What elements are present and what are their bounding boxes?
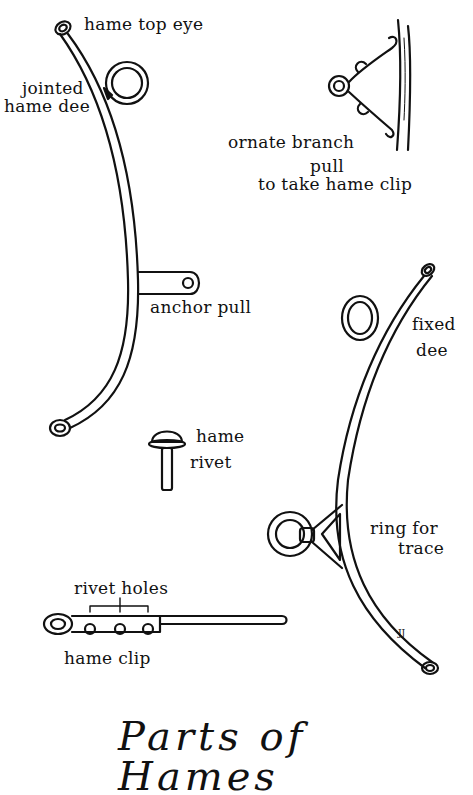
label-ornate-branch-pull: ornate branch — [228, 134, 354, 151]
hame-rivet — [149, 432, 185, 491]
label-ornate-branch-pull-2: pull — [310, 158, 344, 175]
label-ring-for-trace: ring for — [370, 520, 438, 537]
label-ring-for-trace-2: trace — [398, 540, 444, 557]
hame-clip — [44, 598, 287, 634]
artist-signature: JJ — [398, 628, 405, 638]
label-fixed-dee: fixed — [412, 316, 456, 333]
label-ornate-branch-pull-3: to take hame clip — [258, 176, 412, 193]
label-jointed-hame-dee-2: hame dee — [4, 98, 90, 115]
label-hame-rivet: hame — [196, 428, 244, 445]
label-jointed-hame-dee: jointed — [22, 80, 84, 97]
label-rivet-holes: rivet holes — [74, 580, 168, 597]
label-fixed-dee-2: dee — [416, 342, 448, 359]
label-hame-clip: hame clip — [64, 650, 151, 667]
label-hame-rivet-2: rivet — [190, 454, 232, 471]
label-hame-top-eye: hame top eye — [84, 16, 203, 33]
diagram-title: Parts of Hames — [118, 716, 473, 795]
label-anchor-pull: anchor pull — [150, 299, 251, 316]
ornate-branch-pull — [329, 20, 410, 150]
